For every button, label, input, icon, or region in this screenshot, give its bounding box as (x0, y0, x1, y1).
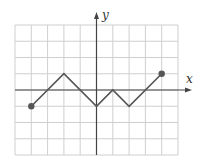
endpoint-dot (28, 103, 34, 109)
y-axis-label: y (101, 8, 109, 22)
coordinate-graph: x y (0, 0, 202, 163)
x-axis-arrow-icon (185, 88, 192, 93)
y-axis-arrow-icon (94, 12, 99, 19)
endpoint-dot (159, 71, 165, 77)
axes (15, 12, 192, 155)
x-axis-label: x (186, 72, 193, 86)
